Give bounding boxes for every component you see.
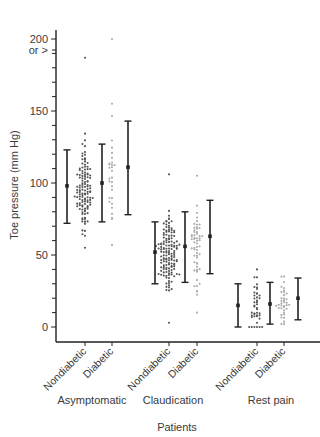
data-point — [79, 193, 81, 195]
data-point — [256, 322, 258, 324]
data-point — [178, 244, 180, 246]
data-point — [163, 275, 165, 277]
data-point — [163, 251, 165, 253]
data-point — [196, 291, 198, 293]
data-point — [259, 326, 261, 328]
data-point — [168, 259, 170, 261]
data-point — [256, 307, 258, 309]
data-point — [256, 303, 258, 305]
data-point — [196, 175, 198, 177]
data-point — [196, 262, 198, 264]
data-point — [84, 154, 86, 156]
data-point — [163, 260, 165, 262]
data-point — [87, 201, 89, 203]
data-point — [171, 229, 173, 231]
data-point — [253, 276, 255, 278]
data-point — [196, 237, 198, 239]
data-point — [81, 206, 83, 208]
group-label: Claudication — [143, 394, 204, 406]
data-point — [196, 285, 198, 287]
data-point — [253, 301, 255, 303]
data-point — [168, 252, 170, 254]
data-point — [196, 266, 198, 268]
data-point — [173, 275, 175, 277]
data-point — [171, 227, 173, 229]
data-point — [196, 312, 198, 314]
data-point — [171, 248, 173, 250]
data-point — [201, 235, 203, 237]
data-point — [251, 315, 253, 317]
data-point — [286, 293, 288, 295]
data-point — [84, 164, 86, 166]
data-point — [89, 190, 91, 192]
data-point — [111, 38, 113, 40]
data-point — [176, 273, 178, 275]
data-point — [163, 241, 165, 243]
data-point — [283, 305, 285, 307]
data-point — [84, 159, 86, 161]
data-point — [280, 297, 282, 299]
data-point — [84, 221, 86, 223]
data-point — [168, 322, 170, 324]
data-point — [168, 267, 170, 269]
data-point — [259, 318, 261, 320]
data-point — [163, 228, 165, 230]
data-point — [256, 268, 258, 270]
data-point — [168, 222, 170, 224]
data-point — [280, 291, 282, 293]
data-point — [278, 304, 280, 306]
data-point — [165, 239, 167, 241]
data-point — [193, 269, 195, 271]
data-point — [81, 177, 83, 179]
data-point — [111, 197, 113, 199]
data-point — [89, 187, 91, 189]
data-point — [283, 312, 285, 314]
data-point — [199, 268, 201, 270]
data-point — [165, 289, 167, 291]
data-point — [84, 57, 86, 59]
data-point — [165, 248, 167, 250]
data-point — [111, 185, 113, 187]
data-point — [283, 276, 285, 278]
data-point — [89, 174, 91, 176]
data-point — [81, 163, 83, 165]
data-point — [84, 139, 86, 141]
data-point — [199, 227, 201, 229]
data-point — [111, 147, 113, 149]
data-point — [79, 202, 81, 204]
data-point — [81, 180, 83, 182]
data-point — [256, 312, 258, 314]
data-point — [275, 305, 277, 307]
data-point — [84, 166, 86, 168]
data-point — [87, 166, 89, 168]
data-point — [81, 170, 83, 172]
data-point — [163, 254, 165, 256]
data-point — [76, 203, 78, 205]
data-point — [81, 233, 83, 235]
data-point — [286, 304, 288, 306]
data-point — [196, 243, 198, 245]
mean-marker — [268, 302, 272, 306]
data-point — [193, 248, 195, 250]
data-point — [163, 234, 165, 236]
data-point — [163, 222, 165, 224]
data-point — [79, 208, 81, 210]
data-point — [280, 300, 282, 302]
data-point — [196, 255, 198, 257]
data-point — [111, 177, 113, 179]
category-label: Nondiabetic — [125, 345, 173, 393]
data-point — [84, 161, 86, 163]
data-point — [191, 247, 193, 249]
data-point — [168, 289, 170, 291]
data-point — [81, 208, 83, 210]
data-point — [193, 241, 195, 243]
mean-marker — [65, 184, 69, 188]
data-point — [79, 177, 81, 179]
data-point — [196, 205, 198, 207]
data-point — [81, 189, 83, 191]
data-point — [196, 252, 198, 254]
data-point — [196, 231, 198, 233]
data-point — [108, 178, 110, 180]
data-point — [89, 204, 91, 206]
data-point — [196, 271, 198, 273]
